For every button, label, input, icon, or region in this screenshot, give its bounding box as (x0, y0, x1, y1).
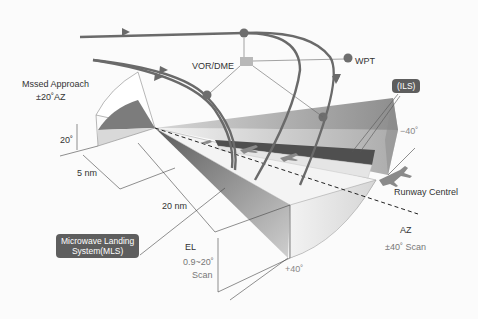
missed-approach-label: Mssed Approach (22, 79, 89, 90)
mls-badge-line1: Microwave Landing (61, 236, 134, 246)
distance-5nm-label: 5 nm (77, 168, 97, 179)
distance-20nm-label: 20 nm (162, 201, 187, 212)
ils-badge: (ILS) (392, 79, 420, 93)
diagram-graphics (0, 0, 478, 319)
elevation-20-label: 20˚ (60, 135, 73, 146)
minus-40-label: −40˚ (400, 126, 418, 137)
runway-centreline-label: Runway Centrel (394, 187, 458, 198)
az-label: AZ (400, 225, 412, 236)
el-scan-label: Scan (192, 270, 213, 281)
el-label: EL (185, 242, 196, 253)
mls-badge: Microwave Landing System(MLS) (56, 234, 139, 258)
arrow-icon (122, 28, 341, 84)
vor-dme-station-icon (240, 57, 253, 66)
mls-diagram: Mssed Approach ±20˚AZ VOR/DME WPT (ILS) … (0, 0, 478, 319)
missed-approach-volume (96, 72, 155, 146)
az-scan-label: ±40˚ Scan (385, 242, 426, 253)
wpt-label: WPT (355, 56, 375, 67)
el-range-label: 0.9~20˚ (183, 257, 214, 268)
plus-40-label: +40˚ (285, 264, 303, 275)
missed-approach-az-label: ±20˚AZ (36, 92, 65, 103)
vor-dme-label: VOR/DME (192, 61, 234, 72)
mls-badge-line2: System(MLS) (61, 246, 134, 256)
